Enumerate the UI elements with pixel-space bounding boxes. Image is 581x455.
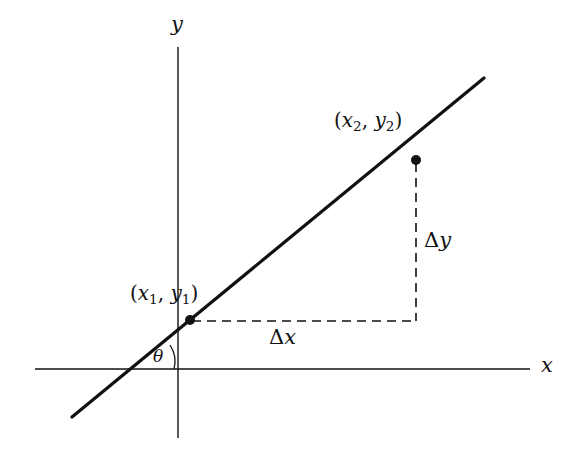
delta-x-label: Δx (269, 327, 296, 348)
theta-label: θ (153, 348, 163, 365)
subscript-x: 1 (149, 291, 158, 307)
paren-open: ( (334, 108, 342, 132)
point-1-dot (185, 315, 195, 325)
point-2-dot (411, 155, 421, 165)
paren-open: ( (130, 281, 138, 305)
x-axis-label: x (541, 355, 553, 376)
var-x: x (342, 108, 353, 132)
paren-close: ) (190, 281, 198, 305)
point-2-label: (x2, y2) (334, 110, 402, 134)
var-y: y (170, 281, 181, 305)
theta-arc (170, 345, 175, 369)
paren-close: ) (394, 108, 402, 132)
delta-symbol: Δ (424, 228, 439, 252)
point-1-label: (x1, y1) (130, 283, 198, 307)
sloped-line (72, 78, 484, 417)
delta-symbol: Δ (269, 325, 284, 349)
delta-x-var: x (284, 325, 296, 349)
var-x: x (138, 281, 149, 305)
y-axis-label: y (171, 14, 183, 35)
delta-y-label: Δy (424, 230, 451, 251)
comma: , (362, 108, 375, 132)
delta-y-var: y (439, 228, 451, 252)
comma: , (158, 281, 171, 305)
diagram-canvas (0, 0, 581, 455)
var-y: y (374, 108, 385, 132)
subscript-x: 2 (353, 118, 362, 134)
slope-diagram: y x (x1, y1) (x2, y2) Δx Δy θ (0, 0, 581, 455)
